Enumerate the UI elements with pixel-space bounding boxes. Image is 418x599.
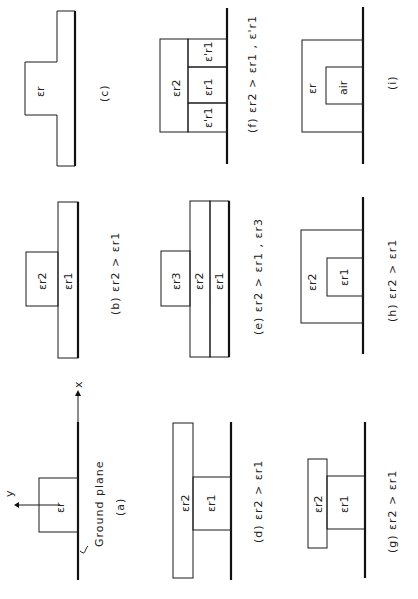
caption-h: (h) εr2 > εr1 — [386, 239, 399, 322]
panel-e: εr3 εr2 εr1 (e) εr2 > εr1 , εr3 — [161, 201, 265, 357]
label-er2-d: εr2 — [179, 495, 192, 512]
y-axis-arrow-icon — [14, 502, 19, 508]
panel-a: y x εr Ground plane (a) — [3, 381, 127, 580]
label-er1-e: εr1 — [213, 273, 226, 290]
panel-d: εr2 εr1 (d) εr2 > εr1 — [173, 422, 265, 580]
label-er1-d: εr1 — [205, 495, 218, 512]
label-er1-b: εr1 — [62, 273, 75, 290]
label-er2-b: εr2 — [36, 273, 49, 290]
caption-i: (i) — [386, 75, 399, 90]
ground-plane-label: Ground plane — [93, 461, 106, 547]
panel-b: εr2 εr1 (b) εr2 > εr1 — [26, 202, 122, 358]
label-er1-prime-bottom-f: ε'r1 — [202, 108, 215, 129]
label-er3-e: εr3 — [170, 273, 183, 290]
label-er-c: εr — [34, 86, 47, 97]
caption-d: (d) εr2 > εr1 — [252, 460, 265, 543]
panel-g: εr2 εr1 (g) εr2 > εr1 — [308, 422, 399, 578]
label-er1-prime-top-f: ε'r1 — [202, 42, 215, 63]
dielectric-waveguide-figure: y x εr Ground plane (a) εr2 εr1 (b) εr2 … — [0, 0, 418, 599]
ridge-guide-c — [25, 11, 75, 166]
panel-i: εr air (i) — [302, 7, 399, 164]
label-er2-g: εr2 — [312, 496, 325, 513]
y-axis-label: y — [3, 490, 16, 497]
label-er2-e: εr2 — [193, 273, 206, 290]
caption-c: (c) — [98, 84, 111, 102]
label-er2-h: εr2 — [306, 274, 319, 291]
region-label-a: εr — [54, 502, 67, 513]
caption-b: (b) εr2 > εr1 — [109, 232, 122, 315]
label-er1-f: εr1 — [202, 79, 215, 96]
label-er1-h: εr1 — [338, 269, 351, 286]
panel-f: εr2 ε'r1 εr1 ε'r1 (f) εr2 > εr1 , ε'r1 — [160, 8, 259, 164]
panel-c: εr (c) — [25, 11, 111, 166]
x-axis-label: x — [72, 381, 85, 388]
label-er2-f: εr2 — [170, 80, 183, 97]
label-air-i: air — [337, 80, 350, 95]
caption-g: (g) εr2 > εr1 — [386, 470, 399, 553]
caption-f: (f) εr2 > εr1 , ε'r1 — [246, 15, 259, 133]
label-er1-g: εr1 — [338, 496, 351, 513]
label-er-i: εr — [306, 83, 319, 94]
caption-a: (a) — [114, 498, 127, 516]
panel-h: εr2 εr1 (h) εr2 > εr1 — [301, 197, 399, 354]
caption-e: (e) εr2 > εr1 , εr3 — [252, 218, 265, 335]
ground-plane-leader — [80, 546, 88, 553]
x-axis-arrow-icon — [75, 390, 81, 396]
